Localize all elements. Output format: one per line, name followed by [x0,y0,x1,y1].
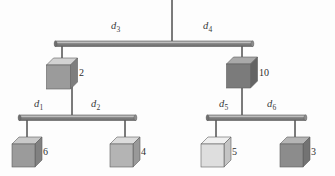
distance-label-d2: d2 [91,99,100,110]
beam-end-cap-right [134,115,137,121]
distance-label-base: d [111,20,116,31]
block-front-face [227,64,251,88]
beam-highlight [208,116,305,117]
beam-end-cap-right [304,115,307,121]
distance-label-subscript: 1 [40,103,44,112]
beam-top-beam [54,41,254,47]
distance-label-base: d [267,98,272,109]
distance-label-d3: d3 [111,21,120,32]
beam-end-cap-left [206,115,209,121]
beam-left-beam [18,115,137,121]
diagram-canvas [0,0,335,176]
block-front-face [12,144,35,167]
distance-label-d5: d5 [219,99,228,110]
distance-label-base: d [219,98,224,109]
distance-label-base: d [91,98,96,109]
mass-label-4: 4 [141,147,146,157]
distance-label-base: d [203,20,208,31]
beam-end-cap-right [251,41,254,47]
beam-body [55,41,253,47]
block-5 [201,137,231,167]
block-front-face [110,144,133,167]
block-4 [110,137,140,167]
distance-label-subscript: 3 [117,25,121,34]
beam-right-beam [206,115,307,121]
distance-label-subscript: 4 [209,25,213,34]
beam-highlight [20,116,135,117]
mass-label-6: 6 [43,147,48,157]
support-wire [171,0,173,42]
distance-label-base: d [34,98,39,109]
mass-label-10: 10 [259,68,269,78]
block-3 [280,137,310,167]
distance-label-d1: d1 [34,99,43,110]
ceiling-support-wire [171,0,173,42]
distance-label-d4: d4 [203,21,212,32]
block-2 [47,58,78,89]
beam-body [207,115,306,121]
distance-label-subscript: 2 [97,103,101,112]
block-front-face [201,144,224,167]
beam-end-cap-left [54,41,57,47]
mass-label-3: 3 [311,147,316,157]
hanger-wires [26,40,296,142]
block-6 [12,137,42,167]
block-front-face [47,65,71,89]
physics-mobile-diagram: d1d2d3d4d5d62106453 [0,0,335,176]
mass-label-5: 5 [232,147,237,157]
mass-label-2: 2 [79,68,84,78]
beam-body [19,115,136,121]
beam-end-cap-left [18,115,21,121]
distance-label-d6: d6 [267,99,276,110]
pivot-wire-left-beam [71,84,73,116]
distance-label-subscript: 6 [273,103,277,112]
block-front-face [280,144,303,167]
block-10 [227,57,258,88]
beam-highlight [56,42,252,43]
distance-label-subscript: 5 [225,103,229,112]
